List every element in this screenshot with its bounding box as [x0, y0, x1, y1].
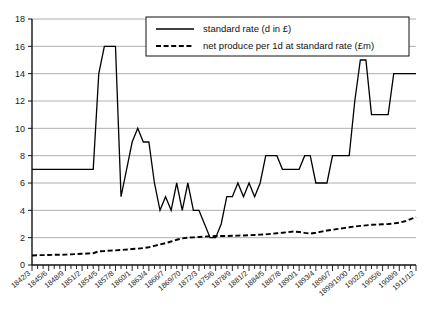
y-tick-label: 18: [15, 14, 25, 24]
y-tick-label: 2: [20, 233, 25, 243]
y-tick-label: 12: [15, 96, 25, 106]
y-tick-label: 6: [20, 178, 25, 188]
legend: standard rate (d in £)net produce per 1d…: [146, 17, 409, 56]
legend-label-2: net produce per 1d at standard rate (£m): [203, 40, 374, 51]
line-chart: 0246810121416181842/31845/61848/91851/21…: [0, 0, 427, 312]
y-tick-label: 16: [15, 42, 25, 52]
y-tick-label: 0: [20, 260, 25, 270]
y-tick-label: 14: [15, 69, 25, 79]
series-line-2: [32, 217, 416, 255]
chart-container: 0246810121416181842/31845/61848/91851/21…: [0, 0, 427, 312]
series-group: [32, 46, 416, 255]
y-tick-label: 4: [20, 206, 25, 216]
series-line-1: [32, 46, 416, 237]
legend-label-1: standard rate (d in £): [203, 23, 291, 34]
x-axis-ticks: 1842/31845/61848/91851/21854/51857/81860…: [9, 265, 416, 298]
y-tick-label: 8: [20, 151, 25, 161]
y-tick-label: 10: [15, 124, 25, 134]
